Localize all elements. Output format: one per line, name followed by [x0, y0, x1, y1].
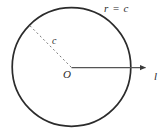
equation-label: r = c — [104, 3, 129, 14]
polar-circle-figure: r = c c O l — [0, 0, 167, 136]
radius-dashed-line — [30, 25, 72, 67]
axis-label: l — [154, 71, 157, 82]
figure-canvas — [0, 0, 167, 136]
radius-label: c — [52, 36, 56, 46]
origin-label: O — [63, 69, 71, 80]
